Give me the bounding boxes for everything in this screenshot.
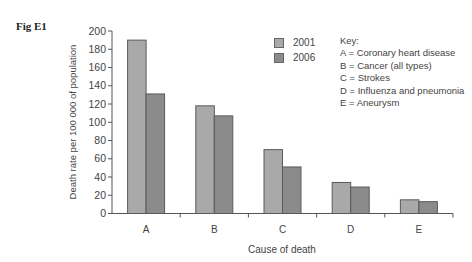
x-tick-label-a: A (143, 224, 150, 235)
x-tick-label-d: D (347, 224, 354, 235)
category-key: Key: A = Coronary heart disease B = Canc… (340, 35, 464, 109)
bar-e-2006 (419, 202, 438, 214)
legend-label-2006: 2006 (293, 52, 315, 63)
legend-item-2006: 2006 (274, 50, 315, 65)
bar-c-2006 (283, 167, 302, 214)
y-tick-label: 40 (94, 171, 106, 183)
x-tick-label-c: C (279, 224, 286, 235)
key-title: Key: (340, 35, 464, 47)
y-axis-label: Death rate per 100 000 of population (67, 45, 78, 200)
key-entry-e: E = Aneurysm (340, 97, 464, 109)
legend-label-2001: 2001 (293, 37, 315, 48)
legend-swatch-2001 (274, 38, 284, 48)
legend: 2001 2006 (274, 35, 315, 65)
x-tick-label-e: E (416, 224, 423, 235)
y-tick-label: 0 (100, 207, 106, 219)
x-tick-label-b: B (211, 224, 218, 235)
y-tick-label: 160 (88, 61, 106, 73)
bar-a-2001 (128, 40, 147, 213)
y-tick-label: 200 (88, 25, 106, 37)
y-tick-label: 100 (88, 116, 106, 128)
bar-d-2001 (332, 182, 351, 213)
key-entry-d: D = Influenza and pneumonia (340, 85, 464, 97)
y-tick-label: 140 (88, 79, 106, 91)
key-entry-b: B = Cancer (all types) (340, 60, 464, 72)
y-tick-label: 20 (94, 189, 106, 201)
y-tick-label: 60 (94, 152, 106, 164)
bar-b-2006 (214, 116, 233, 214)
bar-b-2001 (196, 106, 215, 214)
y-tick-label: 80 (94, 134, 106, 146)
y-tick-label: 120 (88, 98, 106, 110)
key-entry-a: A = Coronary heart disease (340, 47, 464, 59)
y-tick-label: 180 (88, 43, 106, 55)
bar-a-2006 (146, 94, 165, 214)
key-entry-c: C = Strokes (340, 72, 464, 84)
bar-c-2001 (264, 150, 283, 214)
bar-d-2006 (351, 187, 370, 213)
legend-swatch-2006 (274, 53, 284, 63)
x-axis-label: Cause of death (248, 244, 316, 255)
bar-e-2001 (400, 200, 419, 214)
legend-item-2001: 2001 (274, 35, 315, 50)
